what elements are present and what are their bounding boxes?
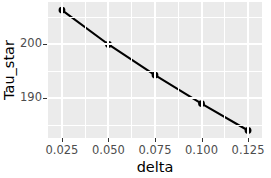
- y-axis-title-text: Tau_star: [1, 40, 17, 100]
- x-axis-title-text: delta: [137, 159, 174, 175]
- plot-panel: [48, 2, 262, 138]
- y-axis-tick-labels: 200190: [18, 0, 42, 140]
- gridline-major-vertical-1: [107, 2, 109, 138]
- gridline-major-horizontal-0: [48, 43, 262, 45]
- y-axis-title: Tau_star: [0, 0, 18, 140]
- x-tick-mark-1: [108, 138, 109, 142]
- x-axis-title: delta: [48, 159, 262, 175]
- gridline-major-vertical-4: [247, 2, 249, 138]
- gridline-major-vertical-3: [201, 2, 203, 138]
- x-tick-mark-4: [248, 138, 249, 142]
- x-tick-label-3: 0.100: [185, 144, 218, 156]
- gridline-major-vertical-2: [154, 2, 156, 138]
- x-tick-label-2: 0.075: [139, 144, 172, 156]
- x-tick-label-1: 0.050: [92, 144, 125, 156]
- gridline-major-horizontal-1: [48, 97, 262, 99]
- y-tick-label-0: 200: [18, 38, 42, 50]
- gridline-major-vertical-0: [61, 2, 63, 138]
- y-tick-mark-0: [43, 44, 47, 45]
- x-tick-mark-3: [202, 138, 203, 142]
- x-tick-label-0: 0.025: [45, 144, 78, 156]
- y-tick-mark-1: [43, 98, 47, 99]
- x-tick-label-4: 0.125: [232, 144, 265, 156]
- y-tick-label-1: 190: [18, 92, 42, 104]
- chart-container: Tau_star 200190 delta 0.0250.0500.0750.1…: [0, 0, 271, 178]
- x-tick-mark-2: [155, 138, 156, 142]
- x-tick-mark-0: [62, 138, 63, 142]
